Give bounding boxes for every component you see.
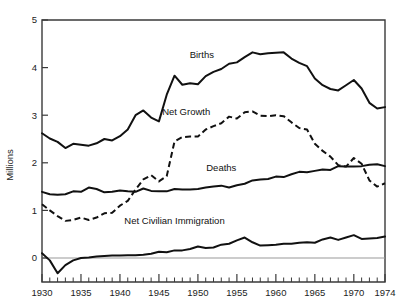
series-annotation-net-growth: Net Growth [162, 106, 210, 117]
series-annotation-deaths: Deaths [206, 162, 236, 173]
y-axis-ticks [42, 20, 48, 258]
x-tick-label: 1935 [70, 287, 91, 298]
series-line-births [42, 52, 385, 148]
x-axis-tick-labels: 1930193519401945195019551960196519701974 [31, 287, 395, 298]
chart-container: 012345 193019351940194519501955196019651… [0, 0, 404, 308]
x-tick-label: 1960 [265, 287, 286, 298]
x-tick-label: 1974 [374, 287, 395, 298]
y-tick-label: 0 [32, 252, 37, 263]
y-axis-tick-labels: 012345 [32, 14, 37, 263]
series-line-net-civilian-immigration [42, 235, 385, 273]
x-axis-ticks [42, 274, 385, 282]
x-tick-label: 1955 [226, 287, 247, 298]
x-tick-label: 1940 [109, 287, 130, 298]
population-components-line-chart: 012345 193019351940194519501955196019651… [0, 0, 404, 308]
y-tick-label: 1 [32, 205, 37, 216]
x-tick-label: 1950 [187, 287, 208, 298]
series-annotation-net-civilian-immigration: Net Civilian Immigration [124, 215, 224, 226]
x-tick-label: 1970 [343, 287, 364, 298]
y-axis-title: Millions [4, 149, 15, 181]
x-tick-label: 1930 [31, 287, 52, 298]
x-tick-label: 1945 [148, 287, 169, 298]
y-tick-label: 5 [32, 14, 37, 25]
y-tick-label: 4 [32, 62, 37, 73]
x-tick-label: 1965 [304, 287, 325, 298]
series-annotation-births: Births [190, 49, 215, 60]
y-tick-label: 3 [32, 110, 37, 121]
y-tick-label: 2 [32, 157, 37, 168]
